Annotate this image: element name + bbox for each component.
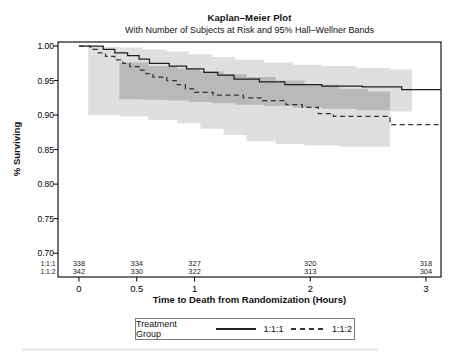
svg-text:0.90: 0.90 [37,110,54,120]
at-risk-count: 304 [420,267,433,276]
svg-text:0: 0 [76,283,81,294]
confidence-bands [88,47,412,147]
at-risk-row-label: 1:1:2 [40,268,55,275]
at-risk-row-label: 1:1:1 [40,260,55,267]
svg-text:0.70: 0.70 [37,248,54,258]
svg-text:0.85: 0.85 [37,145,54,155]
legend-box: Treatment Group 1:1:1 1:1:2 [135,318,355,340]
x-axis-label: Time to Death from Randomization (Hours) [48,294,451,305]
svg-text:1.00: 1.00 [37,41,54,51]
km-figure: Kaplan–Meier Plot With Number of Subject… [0,0,451,360]
at-risk-count: 342 [73,267,86,276]
svg-text:1: 1 [192,283,197,294]
at-risk-count: 313 [304,267,317,276]
km-plot-canvas: 1.000.950.900.850.800.750.7000.51231:1:1… [0,0,451,312]
x-tick-labels: 00.5123 [76,283,428,294]
svg-text:0.80: 0.80 [37,179,54,189]
legend-entry-112: 1:1:2 [332,324,352,334]
legend-title: Treatment Group [136,319,201,339]
at-risk-count: 322 [188,267,201,276]
svg-text:2: 2 [308,283,313,294]
page-shadow-artifact [22,348,378,351]
legend-solid-line-icon [216,328,256,330]
legend-entry-111: 1:1:1 [263,324,283,334]
y-tick-labels: 1.000.950.900.850.800.750.70 [37,41,54,258]
svg-text:0.5: 0.5 [130,283,143,294]
svg-text:3: 3 [423,283,428,294]
at-risk-count: 330 [131,267,144,276]
svg-text:0.75: 0.75 [37,214,54,224]
svg-text:0.95: 0.95 [37,76,54,86]
at-risk-table: 1:1:13383343273203181:1:2342330322313304 [40,259,432,277]
legend-dashed-line-icon [291,328,325,330]
